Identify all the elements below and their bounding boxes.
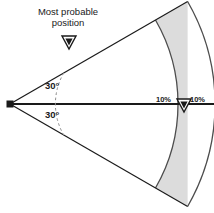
apex-marker <box>7 101 14 108</box>
diagram-canvas <box>0 0 214 213</box>
angle-label-upper: 30° <box>45 81 59 92</box>
angle-label-lower: 30° <box>45 110 59 121</box>
most-probable-position-marker <box>62 36 76 49</box>
tolerance-label-left: 10% <box>156 96 171 105</box>
most-probable-position-label: Most probable position <box>26 7 110 29</box>
lower-ray <box>10 104 188 207</box>
sector-uncertainty-diagram: Most probable position 30° 30° 10% 10% <box>0 0 214 213</box>
tolerance-label-right: 10% <box>190 96 205 105</box>
